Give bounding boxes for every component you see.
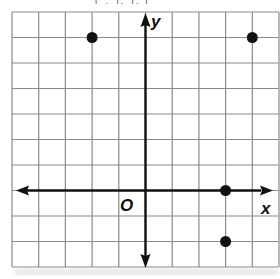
plotted-point xyxy=(87,32,98,43)
y-axis-up-arrow-icon xyxy=(141,13,151,27)
plotted-point xyxy=(247,32,258,43)
plotted-point xyxy=(220,236,231,247)
coordinate-grid: y x O xyxy=(0,0,280,279)
y-axis-label: y xyxy=(150,12,162,31)
grid-shadow xyxy=(14,269,278,275)
y-axis-down-arrow-icon xyxy=(141,254,151,268)
axes xyxy=(16,13,273,268)
plotted-point xyxy=(220,185,231,196)
origin-label: O xyxy=(120,196,133,215)
x-axis-label: x xyxy=(260,199,272,218)
